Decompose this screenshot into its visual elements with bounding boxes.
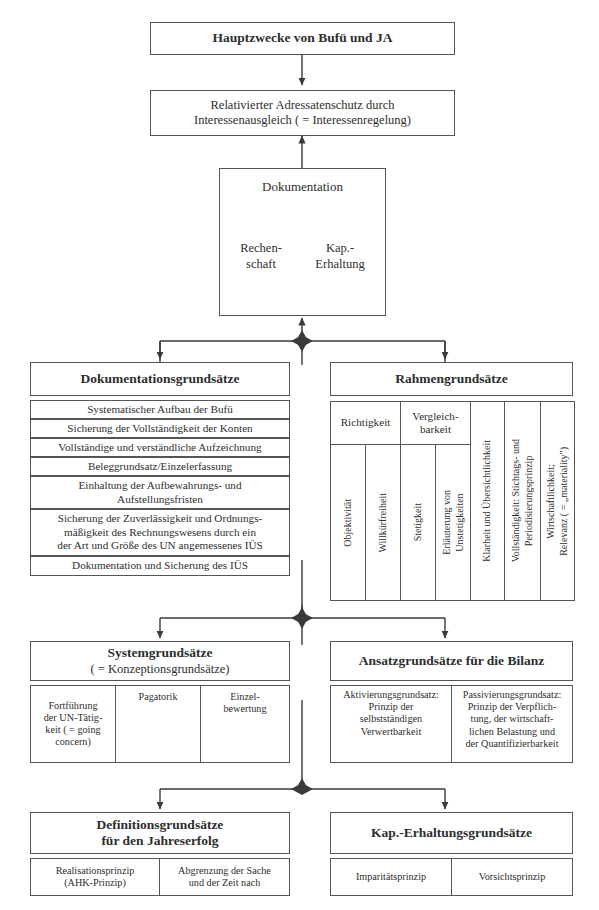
systemgrundsatz-item-label: Einzel- bewertung xyxy=(204,681,286,767)
section-subheader-label-2: ( = Konzeptionsgrundsätze) xyxy=(91,662,230,677)
rahmen-column: Erläuterung von Unstetigkeiten xyxy=(435,444,471,601)
section-header-label-2: Systemgrundsätze xyxy=(108,645,213,661)
dokumentation-box: Dokumentation Rechen- schaft Kap.- Erhal… xyxy=(219,168,386,316)
dokgrundsatz-item: Sicherung der Vollständigkeit der Konten xyxy=(30,419,290,438)
rahmen-group-header: Vergleich- barkeit xyxy=(400,401,471,445)
rahmen-group-header-label: Richtigkeit xyxy=(334,402,397,444)
dokgrundsatz-item: Systematischer Aufbau der Bufü xyxy=(30,400,290,419)
rahmen-column-label: Objektivität xyxy=(342,499,355,547)
ansatzgrundsatz-item: Passivierungsgrundsatz: Prinzip der Verp… xyxy=(451,685,573,763)
adressatenschutz-line2: Interessenausgleich ( = Interessenregelu… xyxy=(194,113,411,128)
systemgrundsatz-item-label: Fortführung der UN-Tätig- keit ( = going… xyxy=(34,686,112,762)
rahmen-column-label: Stetigkeit xyxy=(412,503,425,541)
section-header-label-3: Ansatzgrundsätze für die Bilanz xyxy=(359,653,544,669)
ansatzgrundsatz-item-label: Aktivierungsgrundsatz: Prinzip der selbs… xyxy=(334,683,448,765)
section-header-label-1: Rahmengrundsätze xyxy=(395,371,508,387)
adressatenschutz-box: Relativierter Adressatenschutz durch Int… xyxy=(150,90,455,136)
rahmen-column: Objektivität xyxy=(330,444,366,601)
dokgrundsatz-item-label: Dokumentation und Sicherung des IÜS xyxy=(34,557,286,575)
rahmen-column-label: Wirtschaftlichkeit; Relevanz ( = „materi… xyxy=(545,447,570,556)
rahmen-column: Vollständigkeit: Stichtags- und Periodis… xyxy=(504,401,541,601)
dokgrundsatz-item-label: Systematischer Aufbau der Bufü xyxy=(34,401,286,418)
section-header-label-5: Kap.-Erhaltungsgrundsätze xyxy=(371,825,532,841)
rahmen-group-header: Richtigkeit xyxy=(330,401,401,445)
dokgrundsatz-item: Dokumentation und Sicherung des IÜS xyxy=(30,556,290,576)
dokgrundsatz-item: Einhaltung der Aufbewahrungs- und Aufste… xyxy=(30,476,290,509)
rechenschaft-line1: Rechen- xyxy=(230,241,292,257)
section-subheader-label-4: für den Jahreserfolg xyxy=(101,833,218,849)
dokgrundsatz-item-label: Einhaltung der Aufbewahrungs- und Aufste… xyxy=(34,477,286,508)
definitionsgrundsatz-item: Realisationsprinzip (AHK-Prinzip) xyxy=(30,858,160,896)
systemgrundsatz-item: Einzel- bewertung xyxy=(200,685,290,763)
kaperhaltungsgrundsatz-item: Imparitätsprinzip xyxy=(330,858,452,896)
dokgrundsatz-item-label: Sicherung der Vollständigkeit der Konten xyxy=(34,420,286,437)
kaperhaltungsgrundsatz-item-label: Vorsichtsprinzip xyxy=(455,859,569,895)
top-purpose-label: Hauptzwecke von Bufü und JA xyxy=(212,30,392,46)
rahmengrundsaetze-grid: Richtigkeit Vergleich- barkeit Objektivi… xyxy=(330,401,573,599)
dokgrundsatz-item: Beleggrundsatz/Einzelerfassung xyxy=(30,457,290,476)
definitionsgrundsatz-item-label: Realisationsprinzip (AHK-Prinzip) xyxy=(34,859,156,895)
rahmen-column: Willkürfreiheit xyxy=(365,444,401,601)
rahmen-column-label: Vollständigkeit: Stichtags- und Periodis… xyxy=(510,439,535,562)
dokgrundsatz-item: Vollständige und verständliche Aufzeichn… xyxy=(30,438,290,457)
rechenschaft-line2: schaft xyxy=(230,257,292,273)
dokgrundsatz-item-label: Vollständige und verständliche Aufzeichn… xyxy=(34,439,286,456)
dokgrundsatz-item: Sicherung der Zuverlässigkeit und Ordnun… xyxy=(30,509,290,556)
section-header-kap-erhaltungsgrundsaetze: Kap.-Erhaltungsgrundsätze xyxy=(330,812,573,854)
diagram-canvas: Hauptzwecke von Bufü und JA Relativierte… xyxy=(0,0,599,910)
definitionsgrundsatz-item-label: Abgrenzung der Sache und der Zeit nach xyxy=(163,859,286,895)
top-purpose-box: Hauptzwecke von Bufü und JA xyxy=(150,22,455,55)
section-header-label-4: Definitionsgrundsätze xyxy=(97,817,224,833)
kaperhaltungsgrundsatz-item-label: Imparitätsprinzip xyxy=(334,859,448,895)
rahmen-column-label: Erläuterung von Unstetigkeiten xyxy=(441,490,466,555)
rahmen-column-label: Klarheit und Übersichtlichkeit xyxy=(481,440,494,562)
section-header-ansatzgrundsaetze: Ansatzgrundsätze für die Bilanz xyxy=(330,641,573,681)
section-header-systemgrundsaetze: Systemgrundsätze ( = Konzeptionsgrundsät… xyxy=(30,641,290,681)
kaperhaltung-line2: Erhaltung xyxy=(301,257,379,273)
section-header-label-0: Dokumentationsgrundsätze xyxy=(80,371,239,387)
section-header-rahmengrundsaetze: Rahmengrundsätze xyxy=(330,362,573,396)
rahmen-column: Wirtschaftlichkeit; Relevanz ( = „materi… xyxy=(540,401,575,601)
kaperhaltung-line1: Kap.- xyxy=(301,241,379,257)
systemgrundsatz-item-label: Pagatorik xyxy=(119,681,197,767)
definitionsgrundsatz-item: Abgrenzung der Sache und der Zeit nach xyxy=(159,858,290,896)
ansatzgrundsatz-item: Aktivierungsgrundsatz: Prinzip der selbs… xyxy=(330,685,452,763)
dokgrundsatz-item-label: Sicherung der Zuverlässigkeit und Ordnun… xyxy=(34,510,286,555)
dokgrundsatz-item-label: Beleggrundsatz/Einzelerfassung xyxy=(34,458,286,475)
ansatzgrundsatz-item-label: Passivierungsgrundsatz: Prinzip der Verp… xyxy=(455,683,569,765)
rahmen-column-label: Willkürfreiheit xyxy=(377,493,390,553)
rahmen-group-header-label: Vergleich- barkeit xyxy=(404,402,467,444)
dokumentation-center-label: Dokumentation xyxy=(220,179,385,195)
rahmen-column: Klarheit und Übersichtlichkeit xyxy=(470,401,505,601)
systemgrundsatz-item: Fortführung der UN-Tätig- keit ( = going… xyxy=(30,685,116,763)
section-header-definitionsgrundsaetze: Definitionsgrundsätze für den Jahreserfo… xyxy=(30,812,290,854)
section-header-dokumentationsgrundsaetze: Dokumentationsgrundsätze xyxy=(30,362,290,396)
rahmen-column: Stetigkeit xyxy=(400,444,436,601)
adressatenschutz-line1: Relativierter Adressatenschutz durch xyxy=(211,98,395,113)
systemgrundsatz-item: Pagatorik xyxy=(115,685,201,763)
kaperhaltungsgrundsatz-item: Vorsichtsprinzip xyxy=(451,858,573,896)
